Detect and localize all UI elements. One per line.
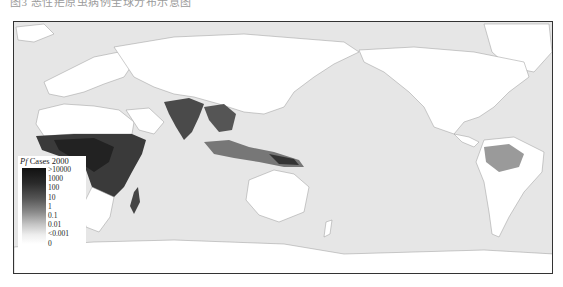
legend-label: 100 bbox=[48, 183, 71, 192]
legend-label: >10000 bbox=[48, 165, 71, 174]
legend-label: 0.01 bbox=[48, 220, 71, 229]
legend-gradient-bar bbox=[22, 168, 46, 244]
map-graphic bbox=[14, 22, 553, 274]
legend-label: <0.001 bbox=[48, 229, 71, 238]
figure-caption: 图3 恶性疟原虫病例全球分布示意图 bbox=[10, 0, 192, 9]
legend-label: 1000 bbox=[48, 174, 71, 183]
world-map: Pf Cases 2000 >10000 1000 100 10 1 0.1 0… bbox=[13, 21, 553, 274]
legend-label: 1 bbox=[48, 202, 71, 211]
legend-label: 10 bbox=[48, 193, 71, 202]
legend-label: 0 bbox=[48, 239, 71, 248]
map-legend: Pf Cases 2000 >10000 1000 100 10 1 0.1 0… bbox=[18, 156, 86, 248]
legend-labels: >10000 1000 100 10 1 0.1 0.01 <0.001 0 bbox=[48, 165, 71, 248]
legend-label: 0.1 bbox=[48, 211, 71, 220]
